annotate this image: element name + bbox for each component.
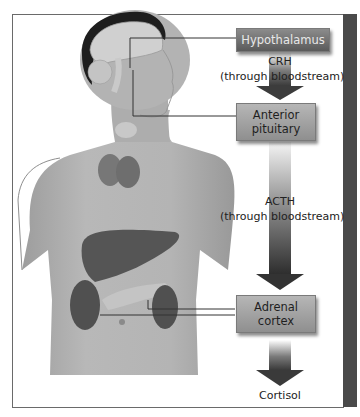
node-adrenal-cortex: Adrenal cortex — [236, 295, 316, 333]
arrow-cortisol — [256, 340, 304, 386]
output-cortisol: Cortisol — [250, 389, 310, 402]
right-kidney-shape — [152, 285, 178, 329]
node-label-line2: cortex — [258, 314, 294, 328]
edge-label-crh: CRH — [264, 55, 296, 68]
edge-label-acth: ACTH — [260, 195, 300, 208]
body-illustration — [0, 0, 360, 417]
navel-shape — [119, 319, 125, 325]
edge-route-crh: (through bloodstream) — [220, 70, 340, 83]
node-label-line1: Adrenal — [254, 300, 298, 314]
node-label: Hypothalamus — [241, 33, 324, 47]
node-hypothalamus: Hypothalamus — [236, 28, 330, 52]
head-shape — [80, 10, 190, 142]
node-label-line1: Anterior — [253, 108, 299, 122]
node-label-line2: pituitary — [252, 122, 301, 136]
edge-route-acth: (through bloodstream) — [220, 210, 340, 223]
left-kidney-shape — [70, 280, 100, 330]
node-anterior-pituitary: Anterior pituitary — [236, 103, 316, 141]
